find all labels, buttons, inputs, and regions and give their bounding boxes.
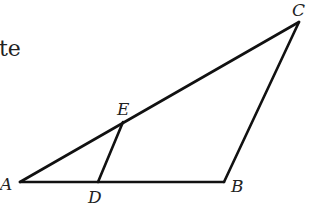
segment-bc [224,22,299,182]
label-b: B [230,176,244,196]
label-a: A [0,174,12,194]
label-c: C [292,0,305,20]
label-d: D [87,187,102,205]
label-e: E [116,99,130,119]
segment-ca [20,22,299,182]
triangle-diagram: A B C D E [0,0,312,205]
